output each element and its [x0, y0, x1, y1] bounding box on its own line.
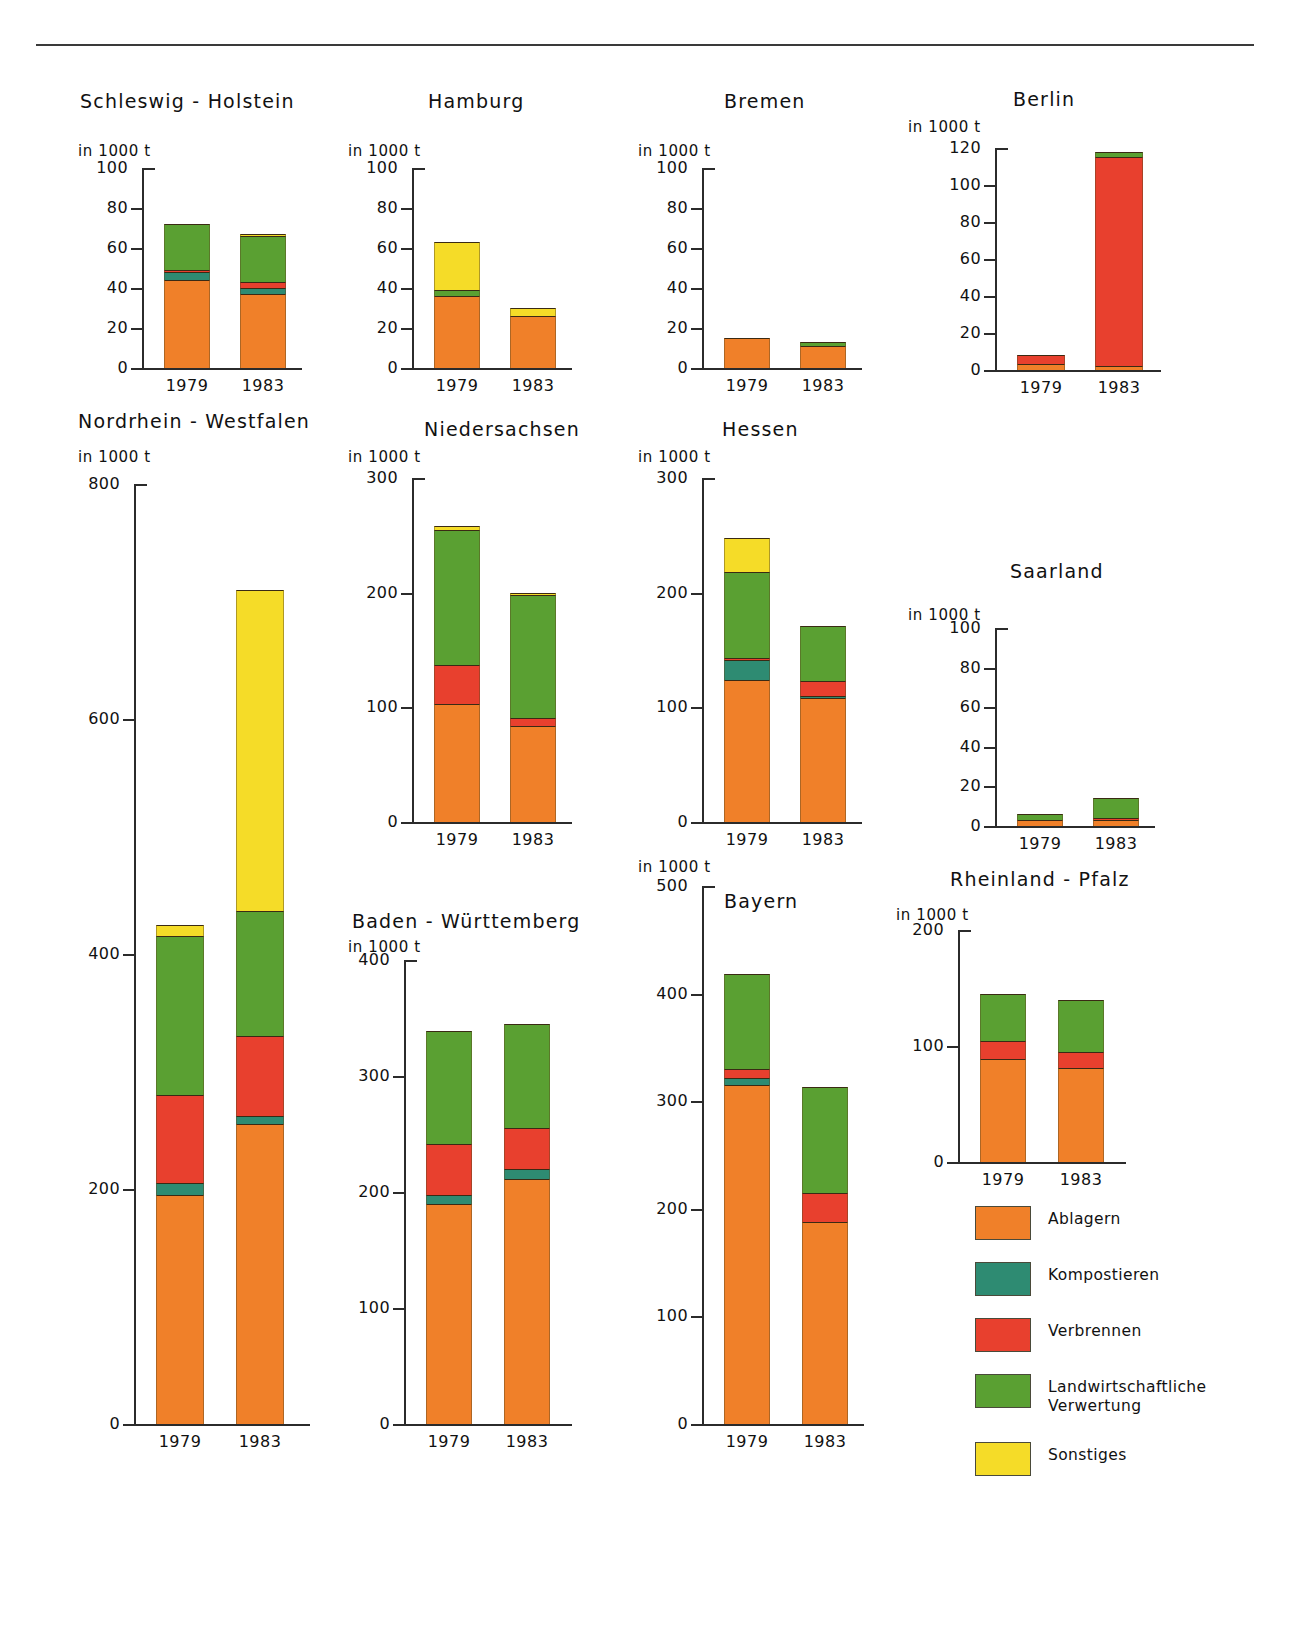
y-tick-label-berlin-60: 60: [915, 249, 981, 268]
x-axis-label-nordrhein-westfalen-1979: 1979: [144, 1432, 216, 1451]
legend-label-landwirtschaft: Landwirtschaftliche Verwertung: [1048, 1374, 1207, 1416]
y-tick-label-saarland-100: 100: [915, 618, 981, 637]
y-tick-hessen-0: [691, 822, 704, 824]
y-tick-label-baden-w-rttemberg-100: 100: [324, 1298, 390, 1317]
bar-segment-landwirtschaft: [800, 626, 846, 681]
y-tick-label-hessen-300: 300: [622, 468, 688, 487]
bar-segment-verbrennen: [236, 1036, 284, 1116]
plot-area-nordrhein-westfalen: 020040060080019791983: [134, 484, 310, 1424]
y-tick-label-schleswig-holstein-0: 0: [62, 358, 128, 377]
bar-niedersachsen-1979: [434, 526, 480, 822]
plot-area-berlin: 02040608010012019791983: [995, 148, 1161, 370]
bar-rheinland-pfalz-1983: [1058, 1000, 1104, 1162]
bar-segment-verbrennen: [1017, 355, 1065, 364]
y-tick-hessen-100: [691, 707, 704, 709]
bar-segment-landwirtschaft: [802, 1087, 848, 1192]
y-tick-rheinland-pfalz-200: [958, 930, 971, 932]
y-tick-label-bayern-400: 400: [622, 984, 688, 1003]
x-axis-label-baden-w-rttemberg-1983: 1983: [492, 1432, 562, 1451]
y-tick-baden-w-rttemberg-400: [404, 960, 417, 962]
bar-berlin-1983: [1095, 152, 1143, 370]
bar-segment-ablagern: [800, 346, 846, 368]
x-axis-saarland: [995, 826, 1155, 828]
bar-segment-ablagern: [504, 1179, 550, 1424]
bar-segment-kompostieren: [156, 1183, 204, 1195]
y-tick-saarland-60: [984, 707, 997, 709]
x-axis-label-niedersachsen-1983: 1983: [498, 830, 568, 849]
y-tick-nordrhein-westfalen-200: [123, 1189, 136, 1191]
y-tick-label-hessen-100: 100: [622, 697, 688, 716]
y-tick-label-hamburg-0: 0: [332, 358, 398, 377]
bar-segment-landwirtschaft: [426, 1031, 472, 1145]
y-tick-label-saarland-40: 40: [915, 737, 981, 756]
y-tick-label-berlin-80: 80: [915, 212, 981, 231]
y-tick-label-baden-w-rttemberg-0: 0: [324, 1414, 390, 1433]
y-tick-label-saarland-20: 20: [915, 776, 981, 795]
y-tick-hamburg-20: [401, 328, 414, 330]
y-tick-label-bayern-500: 500: [622, 876, 688, 895]
y-tick-label-bayern-200: 200: [622, 1199, 688, 1218]
y-tick-label-hessen-200: 200: [622, 583, 688, 602]
x-axis-nordrhein-westfalen: [134, 1424, 310, 1426]
y-tick-label-saarland-0: 0: [915, 816, 981, 835]
legend-item-kompostieren[interactable]: Kompostieren: [975, 1262, 1265, 1296]
bar-segment-verbrennen: [504, 1128, 550, 1169]
y-tick-label-hamburg-40: 40: [332, 278, 398, 297]
y-tick-saarland-40: [984, 747, 997, 749]
x-axis-label-berlin-1983: 1983: [1083, 378, 1155, 397]
panel-title-schleswig-holstein: Schleswig - Holstein: [80, 90, 295, 112]
x-axis-label-baden-w-rttemberg-1979: 1979: [414, 1432, 484, 1451]
legend-item-sonstiges[interactable]: Sonstiges: [975, 1442, 1265, 1476]
y-tick-berlin-20: [984, 333, 997, 335]
bar-segment-ablagern: [1093, 820, 1139, 826]
bar-segment-verbrennen: [510, 718, 556, 726]
y-tick-schleswig-holstein-100: [142, 168, 155, 170]
x-axis-rheinland-pfalz: [958, 1162, 1126, 1164]
legend-item-landwirtschaft[interactable]: Landwirtschaftliche Verwertung: [975, 1374, 1265, 1416]
y-axis-bremen: [702, 168, 704, 368]
y-tick-label-berlin-120: 120: [915, 138, 981, 157]
bar-niedersachsen-1983: [510, 593, 556, 822]
bar-segment-verbrennen: [434, 665, 480, 704]
y-tick-label-rheinland-pfalz-100: 100: [878, 1036, 944, 1055]
y-tick-hamburg-80: [401, 208, 414, 210]
x-axis-label-bremen-1983: 1983: [788, 376, 858, 395]
x-axis-label-schleswig-holstein-1983: 1983: [228, 376, 298, 395]
x-axis-label-bayern-1979: 1979: [712, 1432, 782, 1451]
bar-segment-kompostieren: [504, 1169, 550, 1179]
bar-segment-ablagern: [1058, 1068, 1104, 1162]
bar-segment-ablagern: [434, 296, 480, 368]
legend-item-ablagern[interactable]: Ablagern: [975, 1206, 1265, 1240]
y-tick-label-schleswig-holstein-20: 20: [62, 318, 128, 337]
y-tick-label-baden-w-rttemberg-300: 300: [324, 1066, 390, 1085]
y-tick-label-bayern-0: 0: [622, 1414, 688, 1433]
y-tick-label-berlin-0: 0: [915, 360, 981, 379]
bar-segment-ablagern: [980, 1059, 1026, 1162]
bar-segment-kompostieren: [236, 1116, 284, 1124]
y-tick-rheinland-pfalz-100: [947, 1046, 960, 1048]
bar-segment-sonstiges: [434, 242, 480, 290]
bar-segment-landwirtschaft: [164, 224, 210, 270]
bar-segment-landwirtschaft: [980, 994, 1026, 1042]
y-tick-bremen-80: [691, 208, 704, 210]
bar-segment-verbrennen: [156, 1095, 204, 1183]
y-tick-label-bayern-100: 100: [622, 1306, 688, 1325]
y-tick-bremen-40: [691, 288, 704, 290]
bar-saarland-1979: [1017, 814, 1063, 826]
y-tick-label-nordrhein-westfalen-800: 800: [54, 474, 120, 493]
bar-segment-ablagern: [800, 698, 846, 822]
bar-segment-landwirtschaft: [156, 936, 204, 1095]
x-axis-niedersachsen: [412, 822, 572, 824]
plot-area-rheinland-pfalz: 010020019791983: [958, 930, 1126, 1162]
bar-segment-sonstiges: [724, 538, 770, 572]
y-tick-label-bayern-300: 300: [622, 1091, 688, 1110]
bar-segment-landwirtschaft: [434, 290, 480, 296]
y-tick-label-nordrhein-westfalen-0: 0: [54, 1414, 120, 1433]
y-tick-bayern-0: [691, 1424, 704, 1426]
bar-nordrhein-westfalen-1983: [236, 590, 284, 1424]
bar-segment-verbrennen: [1093, 818, 1139, 820]
y-tick-label-bremen-80: 80: [622, 198, 688, 217]
plot-area-bremen: 02040608010019791983: [702, 168, 862, 368]
y-tick-bremen-100: [702, 168, 715, 170]
legend-item-verbrennen[interactable]: Verbrennen: [975, 1318, 1265, 1352]
